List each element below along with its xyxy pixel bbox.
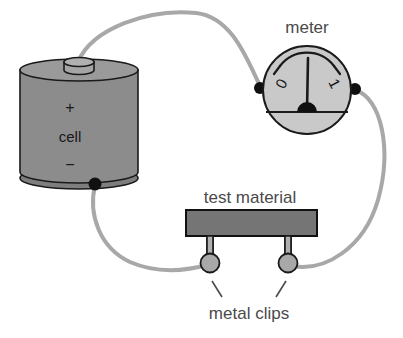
metal-clips-leader-right [276,281,286,297]
cell-plus-sign: + [65,99,74,116]
test-material-component: test material [186,188,317,273]
cell-negative-terminal-dot [89,178,102,191]
circuit-diagram-canvas: + cell − 0 1 me [0,0,403,338]
circuit-diagram-svg: + cell − 0 1 me [0,0,403,338]
cell-label: cell [59,128,82,145]
test-material-bar [186,210,317,236]
metal-clips-label: metal clips [209,304,289,323]
cell-body [20,70,138,183]
cell-terminal-nub-top [64,58,94,67]
metal-clip-right-ball [279,254,298,273]
metal-clips-leader-left [212,281,222,297]
metal-clips-callout: metal clips [209,281,289,323]
meter-label: meter [285,18,329,37]
meter-component: 0 1 meter [254,18,361,134]
cell-minus-sign: − [65,156,74,173]
cell-component: + cell − [20,58,138,191]
metal-clip-left-ball [201,254,220,273]
test-material-label: test material [204,188,297,207]
